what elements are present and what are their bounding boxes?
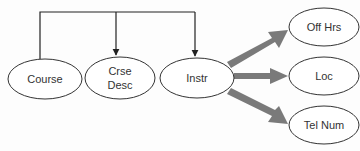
node-instr: Instr (160, 58, 234, 98)
node-loc: Loc (289, 57, 359, 95)
node-label-crse: Crse (108, 65, 131, 77)
node-label-desc: Desc (107, 79, 133, 91)
edge-instr-to-loc (234, 68, 288, 84)
node-course: Course (8, 59, 82, 99)
node-label-tel-num: Tel Num (304, 119, 344, 131)
thin-connectors (40, 12, 195, 59)
node-tel-num: Tel Num (289, 106, 359, 144)
node-label-instr: Instr (186, 72, 208, 84)
node-label-off-hrs: Off Hrs (307, 21, 342, 33)
node-label-course: Course (27, 73, 62, 85)
edge-instr-to-tel-num (227, 88, 288, 124)
node-crse-desc: Crse Desc (85, 57, 155, 99)
diagram-canvas: Course Crse Desc Instr Off Hrs Loc Tel N… (0, 0, 360, 151)
diagram-svg: Course Crse Desc Instr Off Hrs Loc Tel N… (0, 0, 360, 151)
edge-course-line (40, 12, 195, 59)
thick-arrows (227, 30, 288, 124)
edge-instr-to-off-hrs (227, 30, 288, 68)
node-off-hrs: Off Hrs (289, 8, 359, 46)
node-label-loc: Loc (315, 70, 333, 82)
